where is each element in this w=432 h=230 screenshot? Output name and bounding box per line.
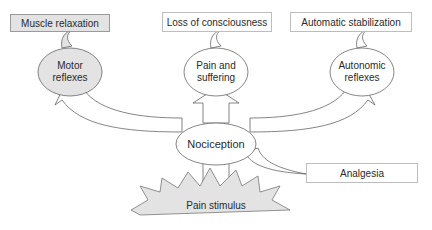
automatic-stabilization-box: Automatic stabilization (290, 12, 412, 32)
loss-of-consciousness-box: Loss of consciousness (162, 12, 272, 32)
pain-label-line2: suffering (191, 72, 241, 84)
autonomic-label-line1: Autonomic (334, 60, 390, 72)
pain-stimulus-label: Pain stimulus (176, 200, 256, 212)
motor-label-line1: Motor (45, 60, 95, 72)
pain-label-line1: Pain and (191, 60, 241, 72)
analgesia-box: Analgesia (306, 163, 418, 183)
autonomic-reflexes-label: Autonomic reflexes (334, 60, 390, 84)
motor-reflexes-label: Motor reflexes (45, 60, 95, 84)
motor-label-line2: reflexes (45, 72, 95, 84)
motor-bubble-tail (62, 30, 72, 48)
diagram-shapes (0, 0, 432, 230)
muscle-relaxation-box: Muscle relaxation (10, 14, 110, 32)
nociception-label: Nociception (180, 138, 252, 150)
autonomic-bubble-tail (357, 30, 367, 48)
pain-bubble-tail (211, 30, 221, 48)
pain-suffering-label: Pain and suffering (191, 60, 241, 84)
autonomic-label-line2: reflexes (334, 72, 390, 84)
analgesia-connector (245, 148, 306, 174)
